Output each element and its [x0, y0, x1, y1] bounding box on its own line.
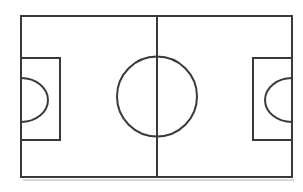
- pitch-svg-canvas: [0, 0, 303, 192]
- pitch-diagram: [0, 0, 303, 192]
